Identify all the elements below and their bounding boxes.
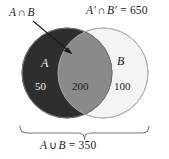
complement-operator-icon: ∩ [96, 4, 107, 16]
label-complement: A′∩B′ = 650 [86, 5, 148, 17]
venn-diagram: A∩B A′∩B′ = 650 A∪B = 350 A 50 200 B 100 [0, 0, 169, 159]
label-circle-a: A [41, 57, 48, 69]
value-intersection: 200 [72, 81, 89, 92]
intersection-operator-icon: ∩ [16, 6, 27, 18]
complement-equals: = [120, 4, 127, 16]
union-brace [20, 126, 149, 139]
complement-value: 650 [130, 4, 148, 16]
complement-set2: B′ [107, 4, 117, 16]
label-union: A∪B = 350 [40, 140, 96, 152]
value-b-only: 100 [114, 81, 131, 92]
label-intersection-callout: A∩B [9, 7, 35, 19]
complement-set1: A′ [86, 4, 96, 16]
union-operator-icon: ∪ [47, 139, 58, 151]
union-value: 350 [79, 139, 97, 151]
label-circle-b: B [117, 55, 124, 67]
intersection-set2: B [27, 6, 34, 18]
value-a-only: 50 [35, 81, 46, 92]
union-set2: B [58, 139, 65, 151]
